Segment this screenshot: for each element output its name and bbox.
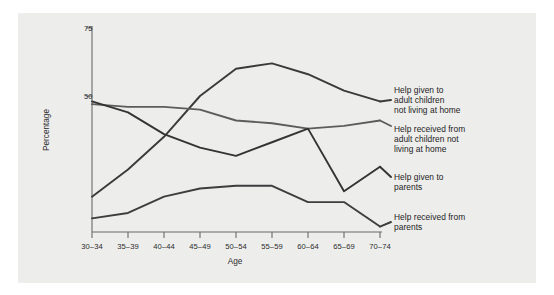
series-label-line: not living at home xyxy=(394,106,461,116)
leader-line-1 xyxy=(380,100,391,101)
axis-lines xyxy=(92,26,382,232)
label-leader-lines xyxy=(380,100,391,227)
series-label-help-given-parents: Help given to parents xyxy=(394,173,444,193)
series-label-line: parents xyxy=(394,183,444,193)
x-tick-label-35-39: 35–39 xyxy=(117,242,139,251)
x-axis-ticks xyxy=(92,232,380,238)
x-tick-label-70-74: 70–74 xyxy=(369,242,391,251)
x-tick-label-40-44: 40–44 xyxy=(153,242,175,251)
x-tick-label-60-64: 60–64 xyxy=(297,242,319,251)
series-line-4 xyxy=(92,186,380,227)
data-series-group xyxy=(92,63,380,226)
series-label-line: parents xyxy=(394,223,465,233)
leader-line-3 xyxy=(380,167,391,177)
x-tick-label-55-59: 55–59 xyxy=(261,242,283,251)
series-line-1 xyxy=(92,63,380,196)
y-axis-ticks xyxy=(86,28,92,96)
series-line-3 xyxy=(92,101,380,191)
x-tick-label-45-49: 45–49 xyxy=(189,242,211,251)
x-tick-label-50-54: 50–54 xyxy=(225,242,247,251)
leader-line-4 xyxy=(380,222,391,227)
series-label-help-received-parents: Help received from parents xyxy=(394,213,465,233)
series-label-line: living at home xyxy=(394,145,465,155)
x-tick-label-65-69: 65–69 xyxy=(333,242,355,251)
x-axis-label: Age xyxy=(228,257,243,266)
y-tick-label-75: 75 xyxy=(84,24,93,33)
x-tick-label-30-34: 30–34 xyxy=(81,242,103,251)
series-label-help-received-adult-children: Help received from adult children not li… xyxy=(394,125,465,154)
leader-line-2 xyxy=(380,120,391,126)
chart-figure: 75 50 30–34 35–39 40–44 45–49 50–54 55–5… xyxy=(0,0,554,295)
y-tick-label-50: 50 xyxy=(84,92,93,101)
y-axis-label: Percentage xyxy=(42,109,51,151)
series-label-help-given-adult-children: Help given to adult children not living … xyxy=(394,86,461,115)
